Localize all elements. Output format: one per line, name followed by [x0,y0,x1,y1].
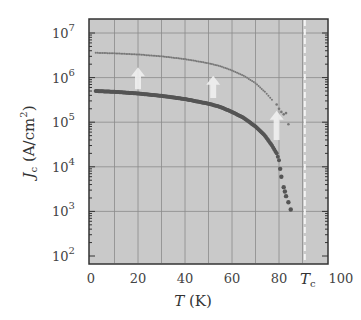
data-point [269,97,271,99]
data-point [105,52,107,54]
y-tick-1e3: 103 [52,200,75,219]
data-point [202,61,204,63]
data-point [289,207,293,211]
data-point [95,52,97,54]
tc-label: Tc [300,270,316,289]
data-point [275,103,278,106]
data-point [278,167,282,171]
data-point [255,82,257,84]
y-tick-1e7: 107 [52,22,75,41]
data-point [248,78,250,80]
data-point [253,81,255,83]
data-point [194,60,196,62]
data-point [187,59,189,61]
data-point [266,93,268,95]
data-point [209,63,211,65]
data-point [284,194,288,198]
data-point [243,75,245,77]
data-point [204,62,206,64]
x-tick-40: 40 [177,271,194,286]
data-point [276,155,280,159]
data-point [206,62,208,64]
data-point [282,185,286,189]
data-point [197,60,199,62]
data-point [262,89,264,91]
data-point [189,59,191,61]
data-point [192,60,194,62]
x-tick-60: 60 [224,271,241,286]
y-tick-1e5: 105 [52,111,75,130]
data-point [196,60,198,62]
data-point [218,65,220,67]
x-tick-20: 20 [130,271,147,286]
data-point [186,58,188,60]
data-point [264,91,266,93]
data-point [249,79,251,81]
data-point [214,64,216,66]
data-point [107,52,109,54]
data-point [208,62,210,64]
x-tick-100: 100 [329,271,354,286]
data-point [286,200,290,204]
data-point [275,151,279,155]
x-tick-80: 80 [271,271,288,286]
data-point [267,95,269,97]
data-point [251,80,253,82]
chart: 107 106 105 104 103 102 0 20 40 60 80 10… [0,0,361,320]
y-axis-label: Jc (A/cm2) [18,106,39,182]
data-point [213,64,215,66]
y-tick-1e4: 104 [52,156,75,175]
x-tick-0: 0 [87,271,95,286]
x-axis-label: T (K) [174,292,212,310]
data-point [216,64,218,66]
data-point [112,52,114,54]
data-point [244,76,246,78]
data-point [211,63,213,65]
y-tick-1e2: 102 [52,245,75,264]
data-point [280,111,283,114]
data-point [201,61,203,63]
data-point [108,52,110,54]
data-point [259,86,261,88]
data-point [287,123,290,126]
data-point [278,107,281,110]
data-point [98,52,100,54]
data-point [271,99,273,101]
x-tick-labels: 0 20 40 60 80 100 Tc [87,270,354,289]
data-point [246,77,248,79]
data-point [110,52,112,54]
y-tick-labels: 107 106 105 104 103 102 [52,22,75,264]
data-point [184,58,186,60]
data-point [191,59,193,61]
data-point [277,158,281,162]
data-point [285,112,288,115]
data-point [283,189,287,193]
y-tick-1e6: 106 [52,67,75,86]
data-point [261,88,263,90]
data-point [103,52,105,54]
data-point [100,52,102,54]
data-point [102,52,104,54]
data-point [199,61,201,63]
data-point [279,174,283,178]
data-point [258,85,260,87]
data-point [282,113,285,116]
data-point [256,84,258,86]
data-point [96,52,98,54]
